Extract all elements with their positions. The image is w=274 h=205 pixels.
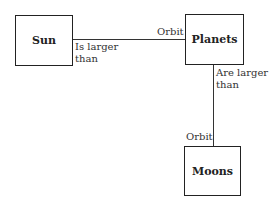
node-moons-label: Moons [192, 165, 233, 178]
edge-sun-source-label: Is larger than [75, 41, 118, 65]
node-moons: Moons [184, 146, 241, 196]
planets-moons-connector [213, 64, 214, 146]
node-planets: Planets [185, 14, 244, 65]
node-sun: Sun [15, 15, 73, 66]
node-planets-label: Planets [192, 33, 238, 46]
node-sun-label: Sun [32, 34, 56, 47]
edge-planets-source-label: Are larger than [216, 67, 268, 91]
edge-sun-target-label: Orbit [157, 26, 184, 38]
edge-planets-target-label: Orbit [186, 131, 213, 143]
